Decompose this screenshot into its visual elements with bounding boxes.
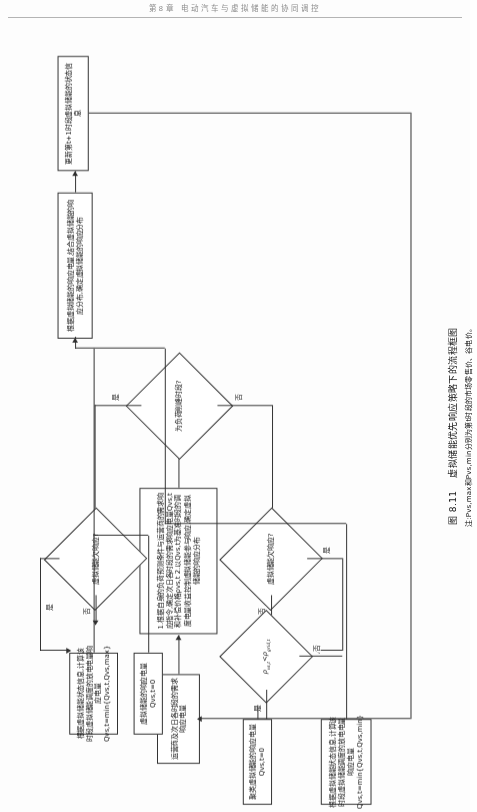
decision-peak-period-label: 为负荷削峰时段? bbox=[175, 376, 184, 435]
node-calc-discharge-upper-label: 根据虚拟储能状态信息,计算该时段虚拟储能调度的放电电量响应电量Qvs,t=min… bbox=[76, 645, 111, 741]
edge-calc-low-to-bus bbox=[346, 524, 347, 719]
edge-d2-yes-v2 bbox=[40, 650, 69, 651]
edge-feedback-h bbox=[411, 113, 412, 719]
figure-caption-title: 图 8.11 虚拟储能优先响应策略下的流程框图 bbox=[446, 276, 459, 576]
node-vs-zero-lower: 聚类虚拟储能的响应电量Qvs,t=0 bbox=[243, 719, 272, 805]
edge-d2-no bbox=[96, 595, 97, 621]
arrow-aggregate-to-update bbox=[72, 171, 78, 176]
decision-vs-under-response-lower: 虚拟储能欠响应? bbox=[235, 522, 307, 596]
edge-upper-collect-v bbox=[75, 348, 165, 349]
figure-diagram: 运营商及次日各时段的需求响应电量 1.根据自身的负荷预测条件与运营商的需求响应指… bbox=[40, 44, 430, 767]
decision-peak-period: 为负荷削峰时段? bbox=[141, 368, 217, 444]
decision-vs-under-response-lower-label: 虚拟储能欠响应? bbox=[267, 529, 276, 588]
edge-feedback-v2 bbox=[201, 718, 411, 719]
running-head: 第8章 电动汽车与虚拟储能的协同调控 bbox=[0, 2, 470, 16]
edge-zero-up-to-bus-v bbox=[94, 535, 149, 536]
edge-d2-yes bbox=[40, 558, 60, 559]
edge-d1-no bbox=[217, 405, 272, 406]
figure-title: 虚拟储能优先响应策略下的流程框图 bbox=[448, 327, 458, 477]
decision-price-compare: ρvs,t<ρgrid,t bbox=[233, 623, 299, 689]
node-vs-zero-upper-label: 虚拟储能的响应电量Qvs,t=0 bbox=[139, 657, 157, 731]
edge-label-d2-no: 否 bbox=[81, 607, 91, 616]
edge-d1-yes bbox=[95, 405, 142, 406]
node-init: 1.根据自身的负荷预测条件与运营商的需求响应指令,确定次日各时段的需求响应电量Q… bbox=[139, 488, 217, 634]
node-aggregate-response: 根据虚拟储能的响应电量,结合虚拟储能的响应分布,确定虚拟储能的响应分布 bbox=[58, 192, 93, 338]
edge-zero-up-to-bus bbox=[148, 536, 149, 653]
flowchart-canvas: 运营商及次日各时段的需求响应电量 1.根据自身的负荷预测条件与运营商的需求响应指… bbox=[40, 44, 430, 767]
decision-vs-under-response-upper-label: 虚拟储能欠响应? bbox=[91, 529, 100, 588]
edge-label-d4-no: 否 bbox=[311, 644, 321, 653]
edge-label-d3-yes: 是 bbox=[321, 546, 331, 555]
node-start-label: 运营商及次日各时段的需求响应电量 bbox=[170, 678, 188, 760]
arrow-start-to-init bbox=[176, 635, 182, 640]
decision-vs-under-response-upper: 虚拟储能欠响应? bbox=[59, 522, 131, 596]
node-vs-zero-lower-label: 聚类虚拟储能的响应电量Qvs,t=0 bbox=[249, 723, 267, 801]
edge-d3-yes-h bbox=[342, 558, 343, 651]
figure-note: 注:Pvs,max和Pvs,min分别为第t时段的市场零售价、谷电价。 bbox=[463, 276, 473, 576]
node-calc-charge-lower-label: 根据虚拟储能状态信息,计算该时段虚拟储能调度的放电电量响应电量Qvs,t=min… bbox=[328, 715, 363, 809]
node-calc-charge-lower: 根据虚拟储能状态信息,计算该时段虚拟储能调度的放电电量响应电量Qvs,t=min… bbox=[321, 719, 372, 805]
node-init-label: 1.根据自身的负荷预测条件与运营商的需求响应指令,确定次日各时段的需求响应电量Q… bbox=[156, 492, 200, 630]
node-update-state-label: 更新第t+1时段虚拟储能的状态信息 bbox=[64, 60, 82, 167]
edge-label-d2-yes: 是 bbox=[44, 603, 54, 612]
arrow-upper-collect bbox=[72, 338, 78, 343]
edge-d3-yes bbox=[307, 558, 342, 559]
edge-feedback-v1 bbox=[89, 113, 411, 114]
edge-label-d1-no: 否 bbox=[233, 393, 243, 402]
arrow-feedback bbox=[197, 716, 202, 722]
node-aggregate-response-label: 根据虚拟储能的响应电量,结合虚拟储能的响应分布,确定虚拟储能的响应分布 bbox=[66, 196, 84, 334]
edge-start-to-init bbox=[178, 635, 179, 674]
node-calc-discharge-upper: 根据虚拟储能状态信息,计算该时段虚拟储能调度的放电电量响应电量Qvs,t=min… bbox=[69, 653, 118, 735]
node-vs-zero-upper: 虚拟储能的响应电量Qvs,t=0 bbox=[134, 653, 163, 735]
edge-d4-yes bbox=[266, 690, 267, 721]
figure-caption-block: 图 8.11 虚拟储能优先响应策略下的流程框图 注:Pvs,max和Pvs,mi… bbox=[446, 276, 477, 576]
edge-calc-low-join bbox=[165, 348, 166, 523]
edge-label-d1-yes: 是 bbox=[110, 393, 120, 402]
figure-number: 图 8.11 bbox=[448, 491, 458, 525]
node-update-state: 更新第t+1时段虚拟储能的状态信息 bbox=[58, 56, 89, 171]
edge-d2-yes-h bbox=[40, 558, 41, 651]
header-rule bbox=[8, 17, 462, 18]
edge-zero-low-to-bus bbox=[257, 705, 258, 719]
edge-calc-low-to-bus-v bbox=[165, 523, 346, 524]
decision-price-compare-label: ρvs,t<ρgrid,t bbox=[261, 635, 271, 678]
edge-d3-yes-v2 bbox=[319, 650, 342, 651]
node-start: 运营商及次日各时段的需求响应电量 bbox=[157, 674, 200, 764]
edge-d4-no bbox=[299, 656, 342, 657]
edge-calc-up-to-bus bbox=[94, 348, 95, 652]
